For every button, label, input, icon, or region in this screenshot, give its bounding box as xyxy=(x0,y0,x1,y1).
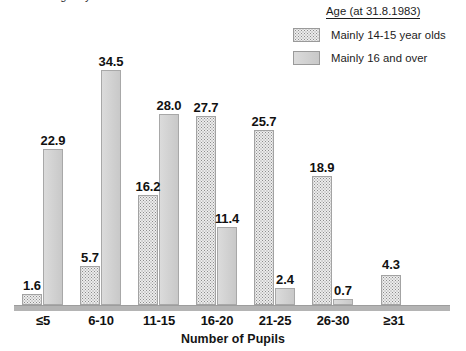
x-tick-16-20: 16-20 xyxy=(201,313,234,328)
bar-21-25-mainly-16-over xyxy=(275,288,295,305)
bar-ge31-mainly-14-15 xyxy=(381,275,401,305)
bar-21-25-mainly-14-15 xyxy=(254,130,274,305)
bar-6-10-mainly-14-15 xyxy=(80,266,100,305)
bar-label-26-30-mainly-14-15: 18.9 xyxy=(310,160,335,175)
bar-16-20-mainly-14-15 xyxy=(196,116,216,305)
x-tick-21-25: 21-25 xyxy=(259,313,292,328)
x-tick-11-15: 11-15 xyxy=(143,313,175,328)
bar-6-10-mainly-16-over xyxy=(101,70,121,305)
bar-le5-mainly-14-15 xyxy=(22,294,42,305)
x-axis-baseline xyxy=(14,305,450,311)
x-tick-6-10: 6-10 xyxy=(88,313,114,328)
chart-page: classes taught by one teacher. Age (at 3… xyxy=(0,0,466,351)
bar-label-le5-mainly-14-15: 1.6 xyxy=(23,278,41,293)
x-tick-26-30: 26-30 xyxy=(317,313,350,328)
bar-label-16-20-mainly-16-over: 11.4 xyxy=(215,211,239,226)
bar-le5-mainly-16-over xyxy=(43,149,63,305)
bar-label-21-25-mainly-14-15: 25.7 xyxy=(252,114,277,129)
plot-area: 1.6 22.9 5.7 34.5 16.2 28.0 27.7 11.4 25… xyxy=(0,0,466,351)
bar-label-6-10-mainly-14-15: 5.7 xyxy=(81,250,99,265)
x-tick-ge31: ≥31 xyxy=(383,313,404,328)
bar-16-20-mainly-16-over xyxy=(217,227,237,305)
bar-label-11-15-mainly-14-15: 16.2 xyxy=(136,179,161,194)
bar-11-15-mainly-16-over xyxy=(159,114,179,305)
bar-11-15-mainly-14-15 xyxy=(138,195,158,305)
bar-26-30-mainly-14-15 xyxy=(312,176,332,305)
bar-label-26-30-mainly-16-over: 0.7 xyxy=(334,283,352,298)
bar-label-le5-mainly-16-over: 22.9 xyxy=(41,133,66,148)
x-tick-le5: ≤5 xyxy=(36,313,50,328)
bar-label-11-15-mainly-16-over: 28.0 xyxy=(157,98,182,113)
bar-label-6-10-mainly-16-over: 34.5 xyxy=(99,54,124,69)
x-axis-title: Number of Pupils xyxy=(0,332,466,346)
bar-label-ge31-mainly-14-15: 4.3 xyxy=(382,257,400,272)
bar-label-21-25-mainly-16-over: 2.4 xyxy=(276,272,294,287)
bar-label-16-20-mainly-14-15: 27.7 xyxy=(194,100,219,115)
